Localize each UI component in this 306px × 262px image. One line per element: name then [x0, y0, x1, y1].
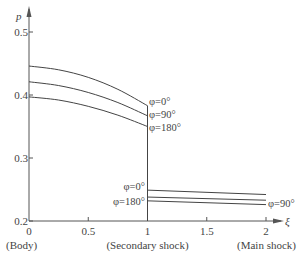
- label-lower-phi-90: φ=90°: [268, 198, 295, 209]
- x-tick-label: 1: [145, 225, 151, 237]
- curve-secondary-to-main: [148, 190, 267, 194]
- x-annotation: (Main shock): [237, 239, 296, 252]
- x-annotation: (Body): [6, 239, 38, 252]
- label-lower-phi-0: φ=0°: [124, 181, 145, 192]
- y-axis-arrow-icon: [27, 6, 32, 17]
- x-annotation: (Secondary shock): [106, 239, 189, 252]
- y-axis-label: p: [15, 10, 22, 22]
- x-tick-label: 0.5: [81, 225, 95, 237]
- y-tick-label: 0.5: [14, 26, 28, 38]
- x-tick-label: 1.5: [200, 225, 214, 237]
- y-tick-label: 0.3: [14, 152, 28, 164]
- x-axis-label: ξ: [285, 215, 290, 228]
- curve-body-to-secondary: [29, 97, 148, 127]
- x-tick-label: 2: [263, 225, 269, 237]
- pressure-distribution-chart: 0.20.30.40.500.511.52(Body)(Secondary sh…: [0, 0, 306, 262]
- curves: [29, 66, 266, 221]
- label-upper-phi-90: φ=90°: [149, 109, 176, 120]
- x-tick-label: 0: [26, 225, 32, 237]
- tick-labels: 0.20.30.40.500.511.52(Body)(Secondary sh…: [6, 26, 296, 252]
- curve-secondary-to-main: [148, 197, 267, 200]
- label-upper-phi-180: φ=180°: [149, 122, 181, 133]
- x-axis-arrow-icon: [273, 219, 284, 224]
- curve-body-to-secondary: [29, 66, 148, 106]
- label-upper-phi-0: φ=0°: [149, 96, 170, 107]
- label-lower-phi-180: φ=180°: [113, 196, 145, 207]
- y-tick-label: 0.4: [14, 89, 28, 101]
- curve-secondary-to-main: [148, 201, 267, 205]
